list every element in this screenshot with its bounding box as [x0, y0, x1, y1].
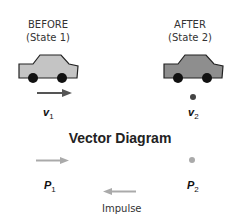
car-after-icon — [161, 52, 225, 86]
velocity-dot-after-icon — [189, 93, 197, 101]
impulse-arrow-icon — [101, 187, 137, 196]
momentum-dot-after-icon — [188, 156, 196, 164]
momentum-label-before: P1 — [44, 179, 56, 194]
impulse-label: Impulse — [102, 203, 142, 214]
before-state-label: (State 1) — [18, 32, 78, 44]
before-heading: BEFORE — [18, 19, 78, 31]
momentum-arrow-before-icon — [35, 156, 71, 165]
after-heading: AFTER — [160, 19, 220, 31]
momentum-label-after: P2 — [187, 179, 199, 194]
velocity-label-after: v2 — [188, 106, 199, 121]
vector-diagram-title: Vector Diagram — [0, 130, 235, 146]
car-before-icon — [16, 52, 80, 86]
velocity-arrow-before-icon — [36, 88, 74, 98]
velocity-label-before: v1 — [43, 106, 54, 121]
after-state-label: (State 2) — [160, 32, 220, 44]
